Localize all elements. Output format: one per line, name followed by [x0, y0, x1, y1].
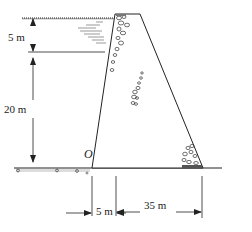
label-5m-horizontal: 5 m	[96, 205, 113, 217]
ground-texture	[16, 169, 90, 174]
dam-body	[92, 14, 203, 168]
label-5m-vertical: 5 m	[8, 31, 25, 43]
label-origin: O	[84, 147, 93, 161]
label-20m-vertical: 20 m	[4, 103, 27, 115]
water-surface	[22, 18, 116, 19]
dam-diagram: 5 m 20 m O 5 m 35 m	[0, 0, 252, 232]
water-hatch	[78, 22, 106, 43]
label-35m-horizontal: 35 m	[144, 199, 167, 211]
